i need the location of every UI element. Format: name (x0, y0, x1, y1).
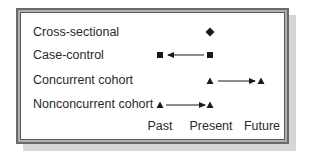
concurrent-cohort-markers (207, 78, 265, 85)
case-control-markers (157, 52, 213, 58)
axis-label-past: Past (147, 119, 172, 133)
axis-label-present: Present (189, 119, 232, 133)
square-icon-past (157, 52, 163, 58)
square-icon-present (207, 52, 213, 58)
triangle-icon-past (157, 102, 164, 109)
axis-label-future: Future (244, 119, 280, 133)
triangle-icon-present-2 (207, 102, 214, 109)
cross-sectional-markers (206, 28, 215, 37)
diamond-icon (206, 28, 215, 37)
nonconcurrent-cohort-markers (157, 102, 214, 109)
triangle-icon-present (207, 78, 214, 85)
triangle-icon-future (258, 78, 265, 85)
